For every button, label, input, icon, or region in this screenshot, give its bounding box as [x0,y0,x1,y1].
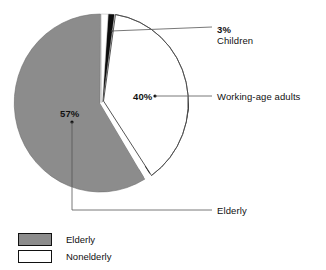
slice-label-working-age-percent: 40% [133,91,152,102]
slice-label-working-age-name: Working-age adults [217,91,300,102]
slice-label-elderly-percent: 57% [60,108,79,119]
slice-label-children-name: Children [217,35,253,46]
legend-item-nonelderly: Nonelderly [18,249,111,264]
pie-chart: 3% Children 40% Working-age adults 57% E… [0,0,326,270]
legend-swatch-nonelderly-icon [18,250,52,263]
pie-chart-graphic [0,0,326,270]
legend-label-nonelderly: Nonelderly [66,251,111,262]
chart-legend: Elderly Nonelderly [18,232,111,266]
legend-item-elderly: Elderly [18,232,111,247]
legend-swatch-elderly-icon [18,233,52,246]
legend-label-elderly: Elderly [66,234,95,245]
slice-label-elderly-name: Elderly [217,205,247,216]
slice-label-children-percent: 3% [217,24,231,35]
